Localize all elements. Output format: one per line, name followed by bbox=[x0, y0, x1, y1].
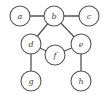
node-a: a bbox=[10, 6, 30, 26]
node-e: e bbox=[71, 34, 91, 54]
node-label: a bbox=[18, 12, 23, 21]
node-c: c bbox=[79, 6, 99, 26]
node-label: b bbox=[51, 12, 56, 21]
node-b: b bbox=[44, 6, 64, 26]
node-label: h bbox=[78, 77, 83, 86]
nodes-layer: abcdefgh bbox=[10, 6, 99, 91]
node-label: c bbox=[87, 12, 92, 21]
node-label: g bbox=[28, 77, 33, 86]
graph-diagram: abcdefgh bbox=[0, 0, 108, 100]
node-h: h bbox=[71, 71, 91, 91]
node-label: e bbox=[79, 40, 84, 49]
node-d: d bbox=[21, 34, 41, 54]
node-f: f bbox=[45, 45, 65, 65]
node-g: g bbox=[21, 71, 41, 91]
node-label: d bbox=[28, 40, 33, 49]
